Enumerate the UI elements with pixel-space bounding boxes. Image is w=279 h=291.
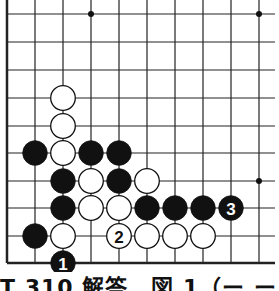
- white-stone: [163, 224, 188, 249]
- white-stone: [51, 114, 76, 139]
- move-number: 2: [114, 228, 123, 247]
- black-stone: [135, 196, 160, 221]
- board-grid: [7, 0, 275, 263]
- move-number: 1: [58, 255, 67, 273]
- white-stone: [79, 169, 104, 194]
- black-stone: [191, 196, 216, 221]
- black-stone: [51, 169, 76, 194]
- black-stone: [51, 196, 76, 221]
- white-stone: [191, 224, 216, 249]
- black-stone: [23, 224, 48, 249]
- diagram-caption: T 310 解答 図 1（ー ー: [0, 274, 279, 291]
- black-stone: [107, 141, 132, 166]
- black-stone: [23, 141, 48, 166]
- white-stone: [51, 224, 76, 249]
- white-stone: [107, 196, 132, 221]
- move-number: 3: [226, 200, 235, 219]
- white-stone: [51, 86, 76, 111]
- white-stone: [135, 169, 160, 194]
- white-stone: [79, 196, 104, 221]
- go-board: 321: [0, 0, 279, 272]
- black-stone: [79, 141, 104, 166]
- star-point: [256, 11, 262, 17]
- black-stone-move-1: 1: [51, 251, 76, 272]
- black-stone: [163, 196, 188, 221]
- white-stone: [51, 141, 76, 166]
- black-stone-move-3: 3: [219, 196, 244, 221]
- white-stone-move-2: 2: [107, 224, 132, 249]
- black-stone: [107, 169, 132, 194]
- stones-layer: 321: [23, 86, 244, 272]
- star-point: [256, 178, 262, 184]
- star-point: [88, 11, 94, 17]
- white-stone: [135, 224, 160, 249]
